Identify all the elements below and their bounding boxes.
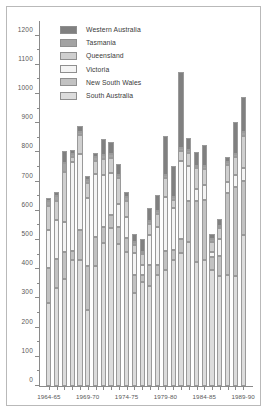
legend-item-label: Western Australia	[86, 26, 141, 33]
bar-segment	[186, 201, 191, 242]
y-axis-tick-label: 1200	[18, 25, 33, 32]
bar-segment	[163, 175, 168, 178]
x-axis-tick	[111, 387, 112, 390]
bar-segment	[202, 185, 207, 200]
legend-item: Queensland	[60, 49, 185, 62]
x-axis-tick	[49, 387, 50, 390]
bar-segment	[46, 230, 51, 267]
bar-segment	[124, 252, 129, 386]
bar-segment	[77, 132, 82, 136]
bar-segment	[93, 153, 98, 158]
x-axis-tick	[142, 387, 143, 390]
y-axis-tick-label: 200	[22, 317, 33, 324]
bar-segment	[93, 174, 98, 237]
y-axis-tick	[35, 356, 39, 357]
table-row	[225, 157, 230, 386]
bar-segment	[132, 234, 137, 243]
legend-item-label: South Australia	[86, 92, 133, 99]
y-axis-minor-tick	[37, 108, 39, 109]
table-row	[54, 192, 59, 386]
bar-segment	[101, 175, 106, 227]
bar-segment	[147, 221, 152, 224]
y-axis-minor-tick	[37, 224, 39, 225]
table-row	[85, 176, 90, 386]
bar-segment	[178, 239, 183, 253]
bar-segment	[140, 252, 145, 255]
x-axis-tick	[212, 387, 213, 390]
y-axis-tick-label: 1000	[18, 84, 33, 91]
bar-segment	[116, 244, 121, 386]
x-axis-tick	[57, 387, 58, 390]
bar-segment	[202, 260, 207, 386]
x-axis-tick	[80, 387, 81, 390]
y-axis-tick-label: 700	[22, 171, 33, 178]
table-row	[163, 136, 168, 386]
bar-segment	[171, 166, 176, 198]
bar-segment	[155, 275, 160, 386]
bar-segment	[85, 180, 90, 183]
x-axis-tick	[228, 387, 229, 390]
x-axis-tick	[243, 387, 244, 390]
x-axis-tick	[165, 387, 166, 390]
chart-frame: 0100200300400500600700800900100011001200…	[6, 6, 261, 406]
bar-segment	[186, 242, 191, 386]
bar-segment	[241, 136, 246, 168]
x-axis-tick-label: 1979-80	[154, 393, 177, 400]
y-axis-tick-label: 300	[22, 288, 33, 295]
x-axis-tick-label: 1984-85	[193, 393, 216, 400]
y-axis-minor-tick	[37, 370, 39, 371]
table-row	[171, 166, 176, 386]
table-row	[108, 142, 113, 386]
bar-segment	[62, 252, 67, 279]
bar-segment	[108, 228, 113, 386]
y-axis-tick	[35, 64, 39, 65]
bar-segment	[217, 228, 222, 239]
bar-segment	[178, 151, 183, 161]
y-axis-tick-label: 0	[29, 376, 33, 383]
bar-segment	[209, 234, 214, 240]
bar-segment	[62, 163, 67, 171]
bar-segment	[225, 182, 230, 194]
y-axis-tick	[35, 327, 39, 328]
table-row	[217, 219, 222, 386]
bar-segment	[108, 173, 113, 215]
bar-segment	[241, 132, 246, 136]
bar-segment	[147, 235, 152, 265]
bar-segment	[124, 192, 129, 197]
bar-segment	[178, 148, 183, 151]
y-axis-tick	[35, 122, 39, 123]
bar-segment	[186, 150, 191, 153]
y-axis-minor-tick	[37, 254, 39, 255]
y-axis-minor-tick	[37, 78, 39, 79]
bar-segment	[132, 275, 137, 293]
bar-segment	[202, 200, 207, 261]
x-axis-tick	[235, 387, 236, 390]
bar-segment	[124, 201, 129, 217]
x-axis-tick	[189, 387, 190, 390]
x-axis-tick	[150, 387, 151, 390]
bar-segment	[194, 201, 199, 263]
bar-segment	[217, 239, 222, 257]
legend-item: South Australia	[60, 89, 185, 102]
table-row	[194, 152, 199, 386]
bar-segment	[217, 276, 222, 386]
table-row	[62, 151, 67, 386]
bar-segment	[217, 256, 222, 275]
bar-segment	[132, 293, 137, 386]
bar-segment	[70, 251, 75, 260]
x-axis-tick	[204, 387, 205, 390]
bar-segment	[124, 197, 129, 201]
bar-segment	[108, 158, 113, 173]
bar-segment	[194, 189, 199, 201]
bar-segment	[85, 183, 90, 198]
bar-segment	[155, 265, 160, 276]
bar-segment	[54, 220, 59, 258]
bar-segment	[147, 224, 152, 235]
bar-segment	[108, 215, 113, 228]
x-axis-tick	[173, 387, 174, 390]
bar-segment	[163, 136, 168, 175]
bar-segment	[163, 197, 168, 251]
bar-segment	[116, 227, 121, 244]
bar-segment	[77, 260, 82, 386]
y-axis-minor-tick	[37, 49, 39, 50]
